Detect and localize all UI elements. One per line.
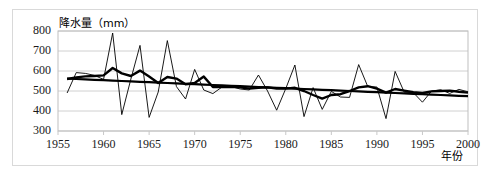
y-tick-label: 500: [21, 83, 51, 98]
chart-container: 降水量（mm） 300400500600700800 1955196019651…: [12, 9, 478, 166]
x-tick-label: 1995: [402, 137, 442, 152]
x-tick-label: 1965: [129, 137, 169, 152]
x-tick-label: 1985: [311, 137, 351, 152]
x-tick-label: 1990: [357, 137, 397, 152]
y-tick-label: 700: [21, 43, 51, 58]
x-tick-label: 1980: [266, 137, 306, 152]
y-tick-label: 600: [21, 63, 51, 78]
x-tick-label: 1955: [38, 137, 78, 152]
y-tick-label: 800: [21, 23, 51, 38]
x-tick-label: 1960: [84, 137, 124, 152]
x-tick-label: 1975: [220, 137, 260, 152]
x-tick-marks: [58, 131, 468, 135]
y-tick-label: 400: [21, 103, 51, 118]
y-tick-label: 300: [21, 123, 51, 138]
x-tick-label: 1970: [175, 137, 215, 152]
x-axis-title: 年份: [441, 147, 463, 163]
